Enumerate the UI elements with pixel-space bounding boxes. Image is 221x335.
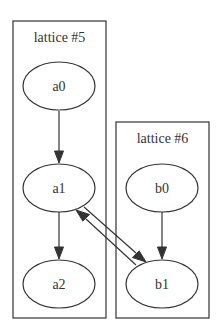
node-b1[interactable]: b1 [126,260,198,308]
diagram-canvas: lattice #5 lattice #6 a0 a1 a2 [0,0,221,335]
cluster-6-label: lattice #6 [137,131,189,146]
node-a2-label: a2 [52,277,65,292]
node-a0[interactable]: a0 [23,62,95,110]
cluster-5-label: lattice #5 [34,30,86,45]
node-b0[interactable]: b0 [126,164,198,212]
node-b0-label: b0 [155,181,169,196]
arrowhead-icon [158,247,167,259]
arrowhead-icon [132,251,146,262]
edge-a1-b1 [84,207,136,253]
arrowhead-icon [55,247,64,259]
edge-b1-a1 [86,219,136,265]
node-a1-label: a1 [52,181,65,196]
arrowhead-icon [76,210,90,221]
arrowhead-icon [55,151,64,163]
node-a1[interactable]: a1 [23,164,95,212]
node-a2[interactable]: a2 [23,260,95,308]
node-b1-label: b1 [155,277,169,292]
node-a0-label: a0 [52,79,65,94]
